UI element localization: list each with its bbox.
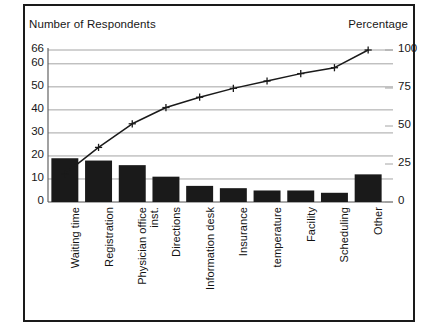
bar bbox=[321, 193, 348, 202]
bar bbox=[287, 190, 314, 202]
right-tick-label: 100 bbox=[398, 42, 428, 54]
right-tick-label: 50 bbox=[398, 118, 428, 130]
category-label-line1: Waiting time bbox=[69, 207, 81, 268]
bar bbox=[355, 174, 382, 202]
category-label-line1: Other bbox=[372, 207, 384, 235]
bar bbox=[119, 165, 146, 202]
bar bbox=[152, 177, 179, 202]
category-label-line1: Insurance bbox=[237, 207, 249, 256]
pareto-chart bbox=[0, 0, 441, 333]
right-tick-label: 75 bbox=[398, 80, 428, 92]
bar bbox=[51, 158, 78, 202]
left-tick-label: 40 bbox=[18, 102, 44, 114]
category-label-line1: Information desk bbox=[204, 207, 216, 290]
right-tick-label: 25 bbox=[398, 156, 428, 168]
right-tick-label: 0 bbox=[398, 194, 428, 206]
bar bbox=[85, 161, 112, 202]
left-tick-label: 10 bbox=[18, 171, 44, 183]
left-tick-label: 66 bbox=[18, 42, 44, 54]
category-label-line1: Registration bbox=[103, 207, 115, 267]
bar bbox=[254, 190, 281, 202]
category-label-line1: Physician office bbox=[136, 207, 148, 285]
cumulative-line bbox=[65, 50, 368, 174]
category-label-line1: temperature bbox=[271, 207, 283, 267]
category-label-line1: Directions bbox=[170, 207, 182, 257]
left-tick-label: 30 bbox=[18, 125, 44, 137]
left-tick-label: 50 bbox=[18, 79, 44, 91]
category-label-line2: inst. bbox=[148, 207, 160, 228]
category-label-line1: Facility bbox=[305, 207, 317, 242]
left-tick-label: 20 bbox=[18, 148, 44, 160]
category-label-line1: Scheduling bbox=[338, 207, 350, 262]
left-tick-label: 0 bbox=[18, 194, 44, 206]
bar bbox=[186, 186, 213, 202]
left-tick-label: 60 bbox=[18, 56, 44, 68]
bar bbox=[220, 188, 247, 202]
